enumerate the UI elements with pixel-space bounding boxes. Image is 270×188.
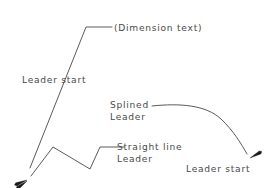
polyline-leader-line (31, 147, 124, 176)
dimension-text-label: (Dimension text) (114, 23, 202, 33)
splined-leader-arrowhead (249, 150, 262, 160)
drawing-canvas: (Dimension text) Leader start Splined Le… (0, 0, 270, 188)
leader-start-top-label: Leader start (22, 75, 86, 85)
splined-leader-label-line2: Leader (110, 112, 146, 122)
splined-leader-label-line1: Splined (110, 100, 149, 110)
straight-line-leader-label-line2: Leader (117, 154, 153, 164)
leader-diagram: (Dimension text) Leader start Splined Le… (0, 0, 270, 188)
straight-line-leader-label-line1: Straight line (117, 142, 182, 152)
leader-start-bottom-label: Leader start (186, 164, 250, 174)
